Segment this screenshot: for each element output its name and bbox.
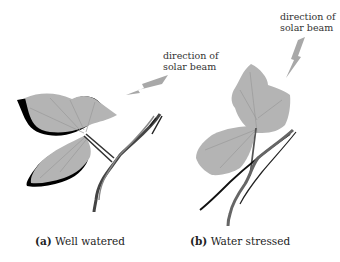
arrow-label-a-line2: solar beam	[163, 61, 219, 72]
caption-b: (b) Water stressed	[190, 235, 290, 247]
arrow-label-a: direction of solar beam	[163, 50, 219, 72]
caption-b-text: Water stressed	[211, 235, 290, 247]
caption-a-letter: (a)	[35, 235, 52, 247]
arrow-label-a-line1: direction of	[163, 50, 219, 61]
caption-a-text: Well watered	[55, 235, 125, 247]
leaf-upper-b	[232, 64, 291, 133]
diagram-canvas	[0, 0, 340, 262]
arrow-label-b-line2: solar beam	[280, 22, 336, 33]
solar-beam-arrow-b	[286, 37, 305, 78]
caption-a: (a) Well watered	[35, 235, 125, 247]
leaf-lower-a	[31, 136, 91, 183]
solar-beam-arrow-a	[126, 75, 168, 95]
panel-a-figure	[17, 75, 168, 212]
caption-b-letter: (b)	[190, 235, 207, 247]
arrow-label-b-line1: direction of	[280, 11, 336, 22]
stem-a	[94, 114, 160, 212]
arrow-label-b: direction of solar beam	[280, 11, 336, 33]
